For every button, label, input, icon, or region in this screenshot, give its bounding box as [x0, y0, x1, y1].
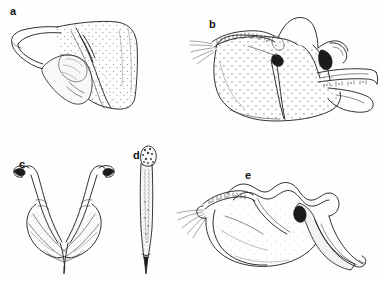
panel-a-anterior-process: [12, 34, 43, 69]
panel-c: c: [0, 140, 130, 281]
panel-d-pointed-tip: [144, 257, 148, 274]
panel-c-right-hook-tip-dark: [103, 169, 114, 176]
panel-e-marginal-setae: [177, 210, 206, 238]
panel-b-stipple-field: [208, 30, 353, 126]
panel-label-c: c: [19, 159, 25, 170]
panel-e-lobe-base-sclerite: [294, 206, 306, 222]
panel-b: b: [190, 0, 379, 140]
panel-b-drawing: [190, 0, 379, 140]
figure-plate: a: [0, 0, 379, 281]
panel-label-a: a: [10, 6, 16, 17]
panel-label-d: d: [133, 150, 140, 161]
panel-e-drawing: [175, 140, 379, 281]
panel-d-apical-head-granules: [142, 148, 154, 164]
panel-a-drawing: [0, 0, 190, 140]
panel-a: a: [0, 0, 190, 140]
panel-b-setae-tuft: [190, 41, 214, 64]
panel-label-b: b: [209, 19, 216, 30]
panel-b-hook-right: [330, 43, 347, 63]
panel-e: e: [175, 140, 379, 281]
panel-label-e: e: [245, 170, 251, 181]
panel-a-anterior-process-inner: [18, 44, 43, 64]
panel-b-hook-right-inner: [333, 47, 343, 55]
panel-a-dorsal-ridge-lower: [18, 33, 61, 44]
